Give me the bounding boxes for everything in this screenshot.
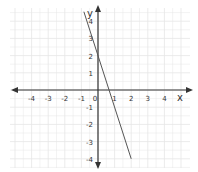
x-axis-label: x <box>177 92 183 103</box>
x-axis-right-arrow-icon <box>186 87 193 93</box>
y-tick-label: 2 <box>89 53 93 61</box>
x-tick-label: 3 <box>146 95 150 103</box>
line-series <box>84 12 131 159</box>
grid-lines <box>10 8 190 168</box>
x-tick-label: -2 <box>61 95 68 103</box>
x-axis-left-arrow-icon <box>11 87 18 93</box>
y-tick-label: -2 <box>86 121 93 129</box>
y-tick-label: -1 <box>86 104 93 112</box>
x-tick-label: -4 <box>28 95 36 103</box>
x-tick-label: 2 <box>129 95 133 103</box>
x-tick-label: -1 <box>78 95 85 103</box>
y-tick-label: 4 <box>89 18 94 26</box>
x-tick-label: -3 <box>45 95 52 103</box>
x-tick-label: 4 <box>162 95 167 103</box>
y-tick-label: 1 <box>89 70 93 78</box>
y-axis-down-arrow-icon <box>95 162 101 169</box>
coordinate-plane: -4-3-2-1012344321-1-2-3-4 x y <box>0 0 198 172</box>
y-tick-label: -4 <box>86 156 94 164</box>
x-tick-label: 0 <box>93 95 97 103</box>
y-tick-label: -3 <box>86 139 93 147</box>
y-axis-up-arrow-icon <box>95 5 101 12</box>
data-series <box>84 12 131 159</box>
y-axis-label: y <box>87 8 93 19</box>
